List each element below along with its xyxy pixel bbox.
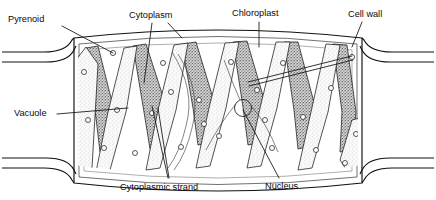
pyrenoid xyxy=(270,146,275,151)
label-nucleus: Nucleus xyxy=(265,181,299,191)
pyrenoid xyxy=(349,54,354,59)
pyrenoid xyxy=(281,61,286,66)
pyrenoid xyxy=(115,108,120,113)
label-vacuole: Vacuole xyxy=(14,108,47,118)
pyrenoid xyxy=(86,118,91,123)
spirogyra-diagram: PyrenoidCytoplasmChloroplastCell wallVac… xyxy=(0,0,436,200)
pyrenoid xyxy=(161,61,166,66)
pyrenoid xyxy=(255,88,260,93)
pyrenoid xyxy=(102,146,107,151)
label-chloroplast: Chloroplast xyxy=(232,8,279,18)
pyrenoid xyxy=(229,60,234,65)
pyrenoid xyxy=(179,145,184,150)
pyrenoid xyxy=(217,134,222,139)
diagram-canvas: PyrenoidCytoplasmChloroplastCell wallVac… xyxy=(0,0,436,200)
label-cytoplasmic-strand: Cytoplasmic strand xyxy=(120,182,198,192)
pyrenoid xyxy=(263,118,268,123)
pyrenoid xyxy=(354,132,359,137)
label-pyrenoid: Pyrenoid xyxy=(8,14,44,24)
label-cell-wall: Cell wall xyxy=(348,9,382,19)
pyrenoid xyxy=(314,148,319,153)
pyrenoid xyxy=(329,86,334,91)
pyrenoid xyxy=(343,161,348,166)
pyrenoid xyxy=(301,115,306,120)
pyrenoid xyxy=(82,70,87,75)
pyrenoid xyxy=(133,151,138,156)
pyrenoid xyxy=(169,90,174,95)
label-cytoplasm: Cytoplasm xyxy=(129,10,173,20)
pyrenoid xyxy=(202,122,207,127)
pyrenoid xyxy=(197,98,202,103)
